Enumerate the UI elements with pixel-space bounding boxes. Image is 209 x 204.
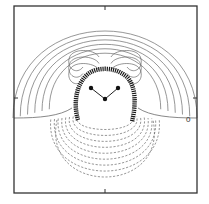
bond-h-right-o [105,88,118,99]
positive-contour-line [35,44,176,112]
zero-contour [14,108,197,118]
negative-contour-line [65,118,144,148]
atom-oxygen [103,97,107,101]
negative-contour-line [58,119,152,160]
bond-h-left-o [91,88,105,99]
negative-contour-line [73,117,137,136]
positive-contour-line [69,64,142,84]
atom-hydrogen-left [89,86,93,90]
zero-contour-label: 0 [186,115,191,124]
contour-plot: 0 [0,0,209,204]
atom-hydrogen-right [116,86,120,90]
core-contour-band [76,69,135,122]
negative-contour-line [77,116,134,130]
positive-contour-line [20,35,190,116]
negative-contours [51,116,160,177]
positive-contours [13,31,197,118]
negative-contour-line [54,119,155,165]
